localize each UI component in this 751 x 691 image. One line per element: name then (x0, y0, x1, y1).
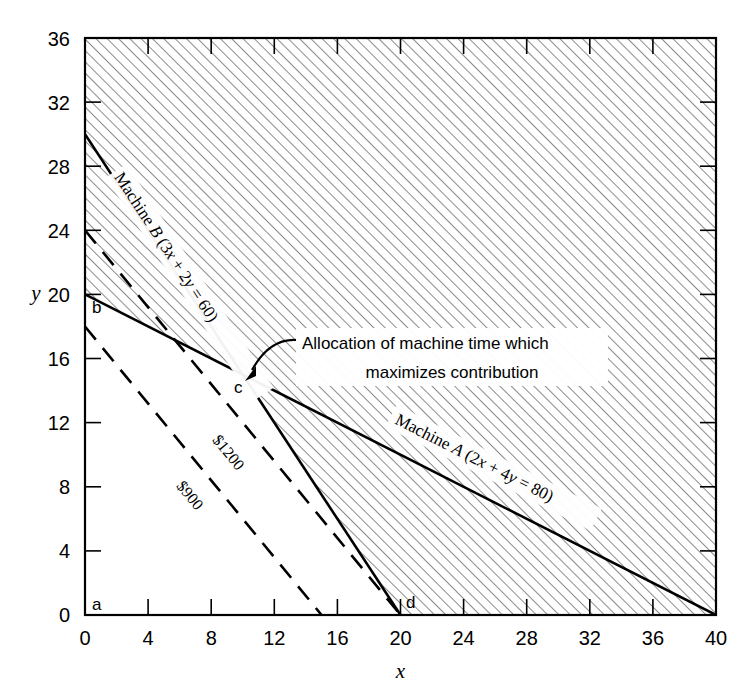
x-tick-label: 32 (579, 627, 601, 649)
x-tick-label: 4 (143, 627, 154, 649)
x-tick-label: 12 (263, 627, 285, 649)
y-tick-label: 20 (48, 284, 70, 306)
y-tick-label: 12 (48, 412, 70, 434)
y-tick-label: 24 (48, 220, 70, 242)
y-tick-label: 32 (48, 92, 70, 114)
y-tick-label: 4 (59, 540, 70, 562)
annotation-line-1: Allocation of machine time which (302, 334, 549, 353)
y-tick-label: 16 (48, 348, 70, 370)
y-tick-label: 36 (48, 28, 70, 50)
vertex-label-d: d (406, 593, 415, 612)
x-tick-label: 8 (206, 627, 217, 649)
vertex-label-c: c (234, 378, 243, 397)
x-tick-label: 20 (389, 627, 411, 649)
y-tick-label: 0 (59, 604, 70, 626)
x-tick-label: 40 (705, 627, 727, 649)
x-tick-label: 28 (516, 627, 538, 649)
infeasible-region-hatching (85, 38, 716, 615)
vertex-label-b: b (92, 298, 101, 317)
y-axis-title: y (29, 281, 41, 305)
x-tick-labels: 0 4 8 12 16 20 24 28 32 36 40 (79, 627, 727, 649)
y-tick-label: 28 (48, 156, 70, 178)
optimum-annotation: Allocation of machine time which maximiz… (245, 328, 608, 386)
annotation-line-2: maximizes contribution (366, 363, 539, 382)
linear-programming-chart: 0 4 8 12 16 20 24 28 32 36 40 0 4 8 12 1… (0, 0, 751, 691)
y-tick-label: 8 (59, 476, 70, 498)
vertex-label-a: a (92, 595, 102, 614)
x-tick-label: 24 (452, 627, 474, 649)
x-tick-label: 0 (79, 627, 90, 649)
chart-svg: 0 4 8 12 16 20 24 28 32 36 40 0 4 8 12 1… (0, 0, 751, 691)
x-axis-title: x (395, 659, 406, 683)
x-tick-label: 36 (642, 627, 664, 649)
x-tick-label: 16 (326, 627, 348, 649)
y-tick-labels: 0 4 8 12 16 20 24 28 32 36 (48, 28, 70, 626)
